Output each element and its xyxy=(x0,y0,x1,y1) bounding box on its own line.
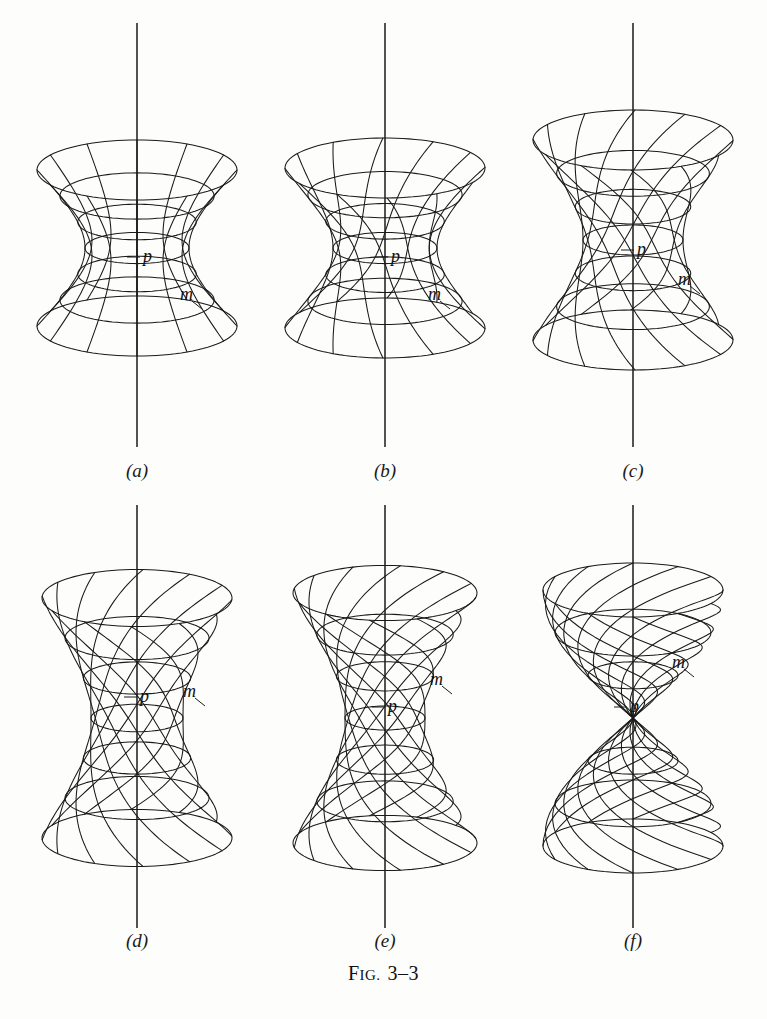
panel-letter-e: (e) xyxy=(374,930,395,952)
label-point-p-e: p xyxy=(386,696,397,716)
caption-prefix: F xyxy=(348,962,360,984)
caption-number: 3–3 xyxy=(388,962,420,984)
label-point-p-d: p xyxy=(138,686,149,706)
figure-3-3-canvas: pm(a)pm(b)pm(c)pm(d)pm(e)pm(f) xyxy=(0,0,767,1019)
panel-letter-b: (b) xyxy=(374,460,396,482)
label-meridian-m-a: m xyxy=(180,284,193,304)
label-point-p-f: p xyxy=(628,696,639,716)
panel-letter-d: (d) xyxy=(126,930,148,952)
label-point-p-a: p xyxy=(141,246,152,266)
label-point-p-b: p xyxy=(389,246,400,266)
label-meridian-m-d: m xyxy=(183,681,196,701)
caption-smallcaps: IG. xyxy=(360,967,381,983)
figure-caption: FIG.3–3 xyxy=(0,962,767,985)
panel-letter-a: (a) xyxy=(126,460,148,482)
panel-letter-c: (c) xyxy=(622,460,643,482)
label-meridian-m-f: m xyxy=(672,652,685,672)
label-meridian-m-e: m xyxy=(430,669,443,689)
label-meridian-m-b: m xyxy=(428,284,441,304)
label-point-p-c: p xyxy=(635,239,646,259)
panel-letter-f: (f) xyxy=(624,930,642,952)
label-meridian-m-c: m xyxy=(678,269,691,289)
